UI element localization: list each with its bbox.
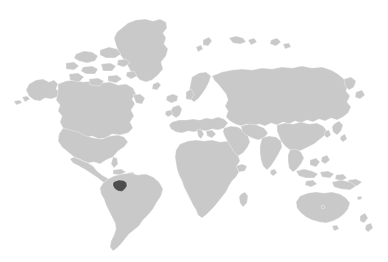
world-map-container: [0, 0, 388, 262]
world-map-svg: [0, 0, 388, 262]
